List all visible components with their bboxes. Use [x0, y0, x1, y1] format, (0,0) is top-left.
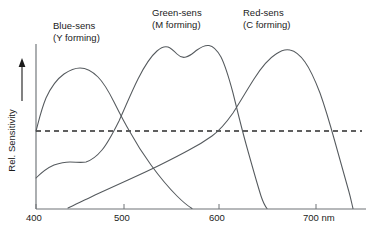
y-axis-label: Rel. Sensitivity: [6, 101, 17, 181]
x-tick-label-600: 600: [209, 212, 225, 223]
label-blue-sens: Blue-sens (Y forming): [53, 20, 100, 43]
x-tick-label-500: 500: [114, 212, 130, 223]
x-tick-label-700: 700 nm: [303, 212, 335, 223]
curve-red-sens: [68, 50, 353, 209]
label-red-sens: Red-sens (C forming): [243, 7, 291, 30]
spectral-sensitivity-chart: Blue-sens (Y forming) Green-sens (M form…: [0, 0, 375, 238]
x-tick-label-400: 400: [26, 212, 42, 223]
curve-blue-sens: [36, 68, 192, 209]
y-axis-arrow-icon: [19, 58, 26, 101]
label-green-sens: Green-sens (M forming): [152, 7, 202, 30]
